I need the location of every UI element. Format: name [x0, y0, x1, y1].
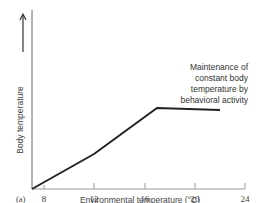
y-axis-label-group: Body temperature — [15, 14, 26, 154]
svg-text:24: 24 — [241, 194, 251, 203]
annotation: Maintenance of constant body temperature… — [180, 62, 248, 105]
svg-text:Maintenance of: Maintenance of — [190, 62, 249, 72]
chart: 8 12 16 20 24 Body temperature Maintenan… — [0, 0, 261, 203]
svg-text:temperature by: temperature by — [191, 84, 249, 94]
svg-text:constant body: constant body — [195, 73, 249, 83]
svg-text:8: 8 — [42, 194, 47, 203]
x-axis-label-html: Environmental temperature (°C) — [70, 196, 210, 203]
y-axis-label: Body temperature — [15, 86, 25, 154]
panel-label: (a) — [16, 195, 25, 203]
x-ticks — [44, 183, 245, 189]
svg-text:behavioral activity: behavioral activity — [180, 95, 248, 105]
body-temperature-line — [32, 108, 220, 189]
